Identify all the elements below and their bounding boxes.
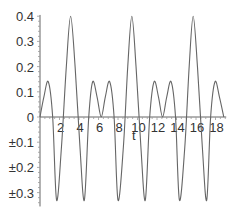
x-tick-label: 16 <box>190 120 204 135</box>
y-tick-label: ±0.2 <box>9 160 34 175</box>
y-tick-label: 0.4 <box>16 9 34 24</box>
y-axis: 0.40.30.20.10±0.1±0.2±0.3 <box>9 9 40 206</box>
x-tick-label: 4 <box>76 120 83 135</box>
x-tick-label: 14 <box>170 120 184 135</box>
y-tick-label: 0.2 <box>16 60 34 75</box>
y-tick-label: 0.3 <box>16 34 34 49</box>
y-tick-label: ±0.1 <box>9 135 34 150</box>
x-axis-label: t <box>132 128 136 143</box>
x-tick-label: 6 <box>96 120 103 135</box>
x-tick-label: 18 <box>209 120 223 135</box>
y-tick-label: 0 <box>27 110 34 125</box>
x-tick-label: 8 <box>115 120 122 135</box>
line-chart: 0.40.30.20.10±0.1±0.2±0.3 24681012141618… <box>0 0 237 215</box>
y-tick-label: ±0.3 <box>9 186 34 201</box>
x-tick-label: 12 <box>151 120 165 135</box>
y-tick-label: 0.1 <box>16 85 34 100</box>
data-line <box>40 16 224 200</box>
